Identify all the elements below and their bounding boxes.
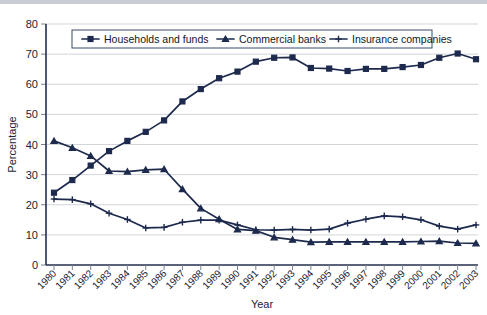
x-tick-label: 2001	[420, 267, 444, 291]
series-2-cross-marker	[87, 201, 94, 208]
series-2-cross-marker	[436, 223, 443, 230]
series-1-triangle-marker	[143, 167, 149, 172]
x-tick-label: 1995	[310, 267, 334, 291]
series-0-square-marker	[107, 149, 112, 154]
series-0-square-marker	[52, 190, 57, 195]
series-2-cross-marker	[179, 219, 186, 226]
series-0-square-marker	[345, 68, 350, 73]
series-2-cross-marker	[142, 225, 149, 232]
series-1-triangle-marker	[363, 239, 369, 244]
y-axis-title: Percentage	[6, 116, 18, 172]
x-tick-label: 1982	[72, 267, 96, 291]
series-1-triangle-marker	[473, 240, 479, 245]
x-tick-label: 1988	[182, 267, 206, 291]
series-line-1	[54, 141, 476, 243]
series-2-cross-marker	[106, 210, 113, 217]
series-2-cross-marker	[363, 216, 370, 223]
series-1-triangle-marker	[88, 153, 94, 158]
series-0-square-marker	[327, 66, 332, 71]
line-chart: 0102030405060708019801981198219831984198…	[0, 0, 487, 315]
x-axis-title: Year	[251, 298, 274, 310]
series-2-cross-marker	[344, 220, 351, 227]
x-tick-label: 2003	[457, 267, 481, 291]
series-1-triangle-marker	[124, 169, 130, 174]
series-0-square-marker	[162, 118, 167, 123]
x-tick-label: 1991	[237, 267, 261, 291]
x-tick-label: 2000	[402, 267, 426, 291]
series-2-cross-marker	[326, 226, 333, 233]
y-tick-label: 50	[26, 108, 38, 120]
series-1-triangle-marker	[326, 239, 332, 244]
series-0	[52, 51, 479, 195]
series-2-cross-marker	[69, 196, 76, 203]
x-tick-label: 1981	[53, 267, 77, 291]
series-1-triangle-marker	[436, 238, 442, 243]
legend-label-0: Households and funds	[104, 33, 209, 45]
x-tick-label: 1992	[255, 267, 279, 291]
series-1-triangle-marker	[455, 240, 461, 245]
x-tick-label: 1985	[127, 267, 151, 291]
x-tick-label: 1990	[218, 267, 242, 291]
x-tick-label: 1994	[292, 267, 316, 291]
series-1-triangle-marker	[344, 239, 350, 244]
series-0-square-marker	[418, 62, 423, 67]
series-1-triangle-marker	[69, 145, 75, 150]
x-tick-label: 1997	[347, 267, 371, 291]
y-tick-label: 10	[26, 229, 38, 241]
x-tick-label: 1986	[145, 267, 169, 291]
series-1-triangle-marker	[400, 239, 406, 244]
series-2-cross-marker	[197, 217, 204, 224]
y-tick-label: 70	[26, 48, 38, 60]
y-tick-label: 80	[26, 18, 38, 30]
series-2-cross-marker	[51, 196, 58, 203]
series-1-triangle-marker	[51, 138, 57, 143]
series-2-cross-marker	[381, 213, 388, 220]
y-tick-label: 40	[26, 139, 38, 151]
series-0-square-marker	[400, 65, 405, 70]
series-0-square-marker	[308, 65, 313, 70]
series-1-triangle-marker	[381, 239, 387, 244]
series-2-cross-marker	[271, 227, 278, 234]
x-tick-label: 1993	[273, 267, 297, 291]
series-2-cross-marker	[418, 217, 425, 224]
series-1-triangle-marker	[289, 237, 295, 242]
series-0-square-marker	[455, 51, 460, 56]
series-1-triangle-marker	[308, 239, 314, 244]
series-0-square-marker	[235, 69, 240, 74]
series-0-square-marker	[143, 129, 148, 134]
series-1-triangle-marker	[161, 166, 167, 171]
series-0-square-marker	[272, 55, 277, 60]
series-2-cross-marker	[454, 226, 461, 233]
x-tick-label: 1999	[384, 267, 408, 291]
series-0-square-marker	[290, 55, 295, 60]
y-tick-label: 20	[26, 199, 38, 211]
series-1-triangle-marker	[418, 239, 424, 244]
legend-label-2: Insurance companies	[352, 33, 452, 45]
x-tick-label: 1989	[200, 267, 224, 291]
x-tick-label: 1998	[365, 267, 389, 291]
series-2-cross-marker	[308, 227, 315, 234]
x-tick-label: 1984	[108, 267, 132, 291]
series-2-cross-marker	[124, 216, 131, 223]
legend-label-1: Commercial banks	[239, 33, 326, 45]
series-0-square-marker	[180, 99, 185, 104]
series-line-2	[54, 199, 476, 230]
y-tick-label: 30	[26, 169, 38, 181]
series-0-square-marker	[70, 178, 75, 183]
series-0-square-marker	[382, 66, 387, 71]
series-2-cross-marker	[289, 226, 296, 233]
series-0-square-marker	[88, 163, 93, 168]
legend-0-square-marker	[88, 37, 93, 42]
series-2-cross-marker	[161, 224, 168, 231]
y-tick-label: 60	[26, 78, 38, 90]
x-tick-label: 1980	[35, 267, 59, 291]
series-2-cross-marker	[473, 222, 480, 229]
series-0-square-marker	[363, 66, 368, 71]
series-0-square-marker	[125, 138, 130, 143]
x-tick-label: 2002	[439, 267, 463, 291]
chart-figure: 0102030405060708019801981198219831984198…	[0, 0, 487, 315]
series-0-square-marker	[253, 59, 258, 64]
x-tick-label: 1987	[163, 267, 187, 291]
series-0-square-marker	[474, 57, 479, 62]
series-2	[51, 196, 480, 234]
